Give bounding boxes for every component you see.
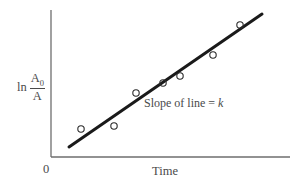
y-axis-label-numerator: A0 (30, 72, 45, 88)
data-point-marker (237, 22, 243, 28)
plot-canvas (0, 0, 306, 186)
y-axis-label-numerator-subscript: 0 (40, 78, 44, 88)
data-point-marker (210, 52, 216, 58)
y-axis-label-denominator: A (32, 89, 43, 103)
x-axis-label: Time (152, 165, 178, 178)
y-axis-label-ln: ln (17, 81, 27, 94)
y-axis-label-fraction: A0 A (30, 72, 45, 103)
slope-annotation-symbol: k (218, 96, 223, 110)
data-point-group (78, 22, 243, 132)
origin-label: 0 (43, 163, 49, 176)
y-axis-label: ln A0 A (17, 72, 45, 103)
data-point-marker (133, 90, 139, 96)
slope-annotation: Slope of line = k (144, 97, 223, 109)
data-point-marker (111, 123, 117, 129)
data-point-marker (78, 126, 84, 132)
kinetics-plot-figure: ln A0 A Time 0 Slope of line = k (0, 0, 306, 186)
data-point-marker (177, 73, 183, 79)
y-axis-label-numerator-text: A (31, 71, 40, 85)
slope-annotation-text: Slope of line = (144, 96, 218, 110)
